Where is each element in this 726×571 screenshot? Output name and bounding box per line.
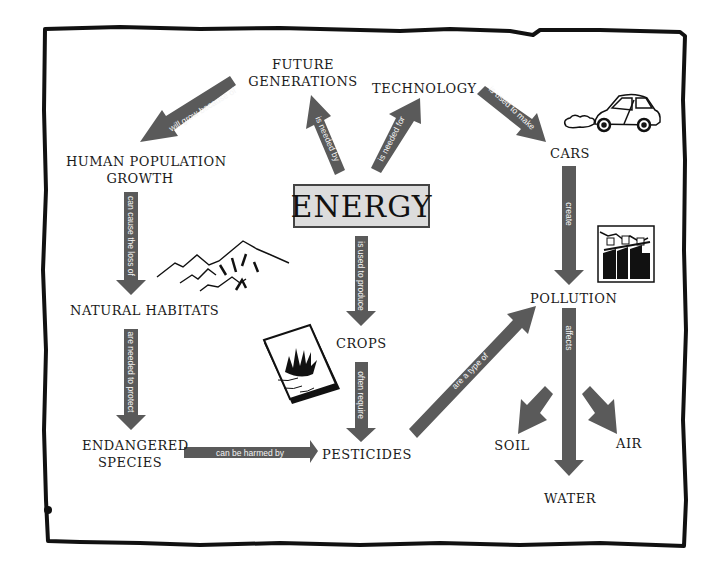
node-natural-habitats: NATURAL HABITATS	[70, 302, 208, 319]
node-label-line: GROWTH	[66, 170, 214, 187]
svg-text:are a type of: are a type of	[450, 350, 491, 391]
arrow-are-a-type-of: are a type of	[409, 306, 536, 438]
node-future-generations: FUTURE GENERATIONS	[248, 56, 358, 90]
node-human-population-growth: HUMAN POPULATION GROWTH	[66, 153, 214, 187]
node-label: NATURAL HABITATS	[70, 302, 208, 319]
node-crops: CROPS	[336, 335, 386, 352]
node-label: TECHNOLOGY	[372, 80, 476, 97]
node-label-line: SPECIES	[82, 454, 178, 471]
node-pesticides: PESTICIDES	[322, 446, 410, 463]
node-label-line: FUTURE	[248, 56, 358, 73]
arrow-can-be-harmed-by: can be harmed by	[184, 440, 318, 463]
node-technology: TECHNOLOGY	[372, 80, 476, 97]
arrow-is-needed-by: is needed by	[306, 95, 345, 175]
node-label: SOIL	[492, 437, 532, 454]
svg-text:are needed to protect: are needed to protect	[126, 332, 136, 413]
grass-fire-card-illustration	[264, 325, 340, 404]
arrow-often-require: often require	[346, 362, 376, 442]
svg-text:create: create	[564, 202, 574, 226]
arrow-are-needed-to-protect: are needed to protect	[116, 329, 146, 430]
node-label: AIR	[612, 435, 646, 452]
arrow-pollution-to-soil	[518, 386, 553, 434]
car-illustration	[565, 94, 660, 131]
node-label: CARS	[548, 145, 592, 162]
border-blob	[44, 506, 52, 514]
arrow-is-needed-for: is needed for	[371, 98, 421, 173]
node-label: WATER	[542, 490, 598, 507]
svg-text:is used to produce: is used to produce	[356, 241, 366, 311]
arrow-pollution-to-air	[582, 386, 617, 434]
node-label-line: ENDANGERED	[82, 437, 178, 454]
mountains-illustration	[157, 241, 289, 291]
concept-map-canvas: will grow because of is needed by is nee…	[0, 0, 726, 571]
svg-text:affects: affects	[564, 326, 574, 351]
arrow-affects: affects	[554, 308, 584, 476]
node-label: POLLUTION	[530, 290, 610, 307]
node-label-line: HUMAN POPULATION	[66, 153, 214, 170]
svg-text:can be harmed by: can be harmed by	[216, 448, 285, 458]
factory-smokestacks-illustration	[598, 226, 654, 282]
node-water: WATER	[542, 490, 598, 507]
node-pollution: POLLUTION	[530, 290, 610, 307]
node-label: CROPS	[336, 335, 386, 352]
arrow-can-cause-the-loss-of: can cause the loss of	[116, 192, 146, 295]
node-air: AIR	[612, 435, 646, 452]
arrow-is-used-to-produce: is used to produce	[346, 236, 376, 326]
arrow-will-grow-because-of: will grow because of	[140, 76, 238, 142]
node-energy: ENERGY	[293, 184, 430, 228]
node-cars: CARS	[548, 145, 592, 162]
node-label: PESTICIDES	[322, 446, 410, 463]
node-label-line: GENERATIONS	[248, 73, 358, 90]
svg-text:often require: often require	[356, 371, 366, 419]
node-endangered-species: ENDANGERED SPECIES	[82, 437, 178, 471]
energy-label: ENERGY	[291, 189, 433, 224]
arrow-create: create	[554, 166, 584, 285]
diagram-graphics: will grow because of is needed by is nee…	[0, 0, 726, 571]
svg-text:can cause the loss of: can cause the loss of	[126, 196, 136, 276]
svg-text:is used to make: is used to make	[487, 84, 538, 132]
arrow-is-used-to-make: is used to make	[477, 84, 546, 142]
node-soil: SOIL	[492, 437, 532, 454]
